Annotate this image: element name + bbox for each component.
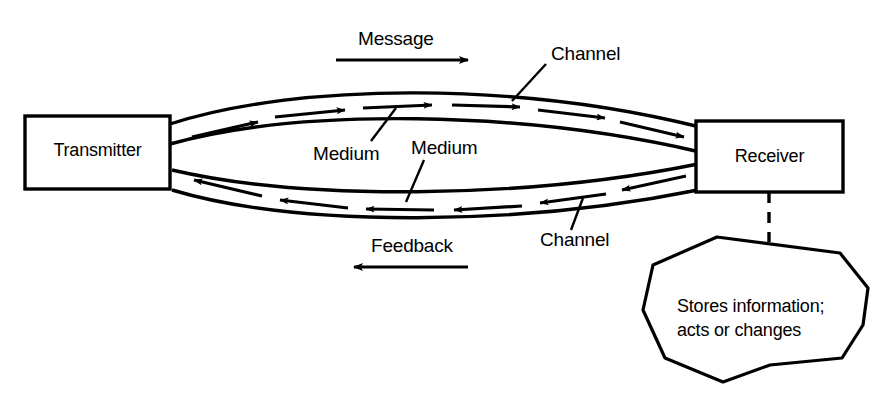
feedback-label: Feedback <box>371 235 453 257</box>
lower-channel-band <box>172 164 698 218</box>
transmitter-label: Transmitter <box>25 139 170 161</box>
channel-bottom-label: Channel <box>540 229 609 251</box>
medium-bottom-leader <box>406 160 424 202</box>
diagram-canvas: Transmitter Receiver Message Feedback Ch… <box>0 0 892 403</box>
receiver-label: Receiver <box>696 145 843 167</box>
message-label: Message <box>358 28 434 50</box>
outcome-text-line-2: acts or changes <box>677 318 801 342</box>
medium-bottom-label: Medium <box>411 137 477 159</box>
communication-model-diagram <box>0 0 892 403</box>
medium-top-leader <box>371 108 396 141</box>
channel-bottom-leader <box>571 198 583 230</box>
outcome-text-line-1: Stores information; <box>677 294 824 318</box>
medium-top-label: Medium <box>313 143 379 165</box>
channel-top-label: Channel <box>551 43 620 65</box>
channel-top-leader <box>512 64 546 101</box>
